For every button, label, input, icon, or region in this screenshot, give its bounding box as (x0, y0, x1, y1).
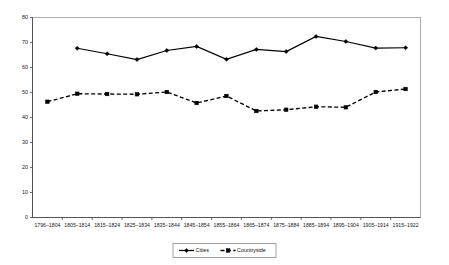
x-tick-label: 1915–1922 (393, 222, 419, 228)
legend-label: Countryside (237, 247, 266, 253)
data-point-marker (314, 105, 318, 109)
data-point-marker (75, 92, 79, 96)
data-point-marker (105, 92, 109, 96)
x-tick-label: 1905–1914 (363, 222, 389, 228)
x-tick-label: 1805–1814 (64, 222, 90, 228)
line-chart-figure: 01020304050607080 1796–18041805–18141815… (0, 0, 449, 265)
x-tick-label: 1885–1894 (303, 222, 329, 228)
y-tick-label: 10 (22, 189, 28, 195)
y-tick-label: 40 (22, 114, 28, 120)
data-point-marker (255, 109, 259, 113)
y-tick-label: 50 (22, 89, 28, 95)
data-point-marker (225, 94, 229, 98)
x-tick-label: 1865–1874 (243, 222, 269, 228)
data-point-marker (135, 92, 139, 96)
data-point-marker (374, 90, 378, 94)
x-tick-label: 1845–1854 (184, 222, 210, 228)
data-point-marker (344, 105, 348, 109)
x-tick-label: 1796–1804 (34, 222, 60, 228)
legend-marker-sample (226, 249, 230, 253)
y-tick-label: 0 (25, 214, 28, 220)
y-tick-label: 60 (22, 64, 28, 70)
data-point-marker (165, 90, 169, 94)
y-tick-label: 20 (22, 164, 28, 170)
data-point-marker (284, 108, 288, 112)
data-point-marker (46, 100, 50, 104)
x-tick-label: 1825–1834 (124, 222, 150, 228)
y-tick-label: 30 (22, 139, 28, 145)
x-tick-label: 1895–1904 (333, 222, 359, 228)
x-tick-label: 1815–1824 (94, 222, 120, 228)
x-tick-label: 1875–1884 (273, 222, 299, 228)
chart-canvas: 01020304050607080 1796–18041805–18141815… (0, 0, 449, 265)
y-tick-label: 80 (22, 14, 28, 20)
y-tick-label: 70 (22, 39, 28, 45)
data-point-marker (404, 87, 408, 91)
x-tick-label: 1855–1864 (214, 222, 240, 228)
data-point-marker (195, 101, 199, 105)
chart-legend: CitiesCountryside (173, 244, 276, 258)
x-tick-label: 1835–1844 (154, 222, 180, 228)
legend-label: Cities (196, 247, 210, 253)
